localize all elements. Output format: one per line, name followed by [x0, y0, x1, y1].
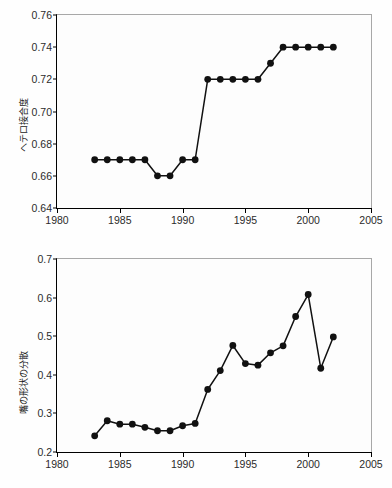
- data-point-marker: [129, 421, 136, 428]
- x-tick-label-bottom: 2000: [297, 458, 320, 470]
- x-tick-label-bottom: 1985: [108, 458, 131, 470]
- y-tick-label-bottom: 0.4: [37, 369, 52, 381]
- y-tick-mark-bottom: [53, 413, 57, 414]
- data-point-marker: [179, 156, 186, 163]
- x-tick-label-bottom: 2005: [359, 458, 382, 470]
- figure-container: ヘテロ接合度 0.640.660.680.700.720.740.7619801…: [0, 0, 392, 488]
- y-tick-label-top: 0.72: [32, 73, 52, 85]
- data-point-marker: [317, 44, 324, 51]
- x-tick-mark-bottom: [183, 452, 184, 457]
- data-line-top: [95, 47, 334, 176]
- y-tick-label-bottom: 0.6: [37, 292, 52, 304]
- y-axis-label-top: ヘテロ接合度: [17, 98, 30, 152]
- chart-panel-bottom: 嘴の形状の分散 0.20.30.40.50.60.719801985199019…: [0, 244, 392, 488]
- data-point-marker: [179, 422, 186, 429]
- data-point-marker: [217, 367, 224, 374]
- x-tick-mark-top: [183, 208, 184, 213]
- x-tick-label-bottom: 1980: [45, 458, 68, 470]
- y-tick-label-top: 0.74: [32, 41, 52, 53]
- x-tick-label-top: 1980: [45, 214, 68, 226]
- data-point-marker: [129, 156, 136, 163]
- plot-area-bottom: 0.20.30.40.50.60.71980198519901995200020…: [56, 258, 372, 453]
- data-point-marker: [154, 427, 161, 434]
- x-tick-mark-bottom: [371, 452, 372, 457]
- data-point-marker: [192, 156, 199, 163]
- data-point-marker: [305, 291, 312, 298]
- x-tick-mark-top: [57, 208, 58, 213]
- data-point-marker: [280, 342, 287, 349]
- x-tick-mark-bottom: [57, 452, 58, 457]
- data-point-marker: [167, 172, 174, 179]
- data-point-marker: [217, 76, 224, 83]
- x-tick-mark-top: [371, 208, 372, 213]
- data-point-marker: [317, 365, 324, 372]
- data-point-marker: [330, 334, 337, 341]
- data-point-marker: [142, 156, 149, 163]
- chart-panel-top: ヘテロ接合度 0.640.660.680.700.720.740.7619801…: [0, 0, 392, 244]
- y-tick-label-top: 0.68: [32, 138, 52, 150]
- x-tick-label-top: 1995: [234, 214, 257, 226]
- y-tick-mark-bottom: [53, 259, 57, 260]
- y-tick-mark-top: [53, 47, 57, 48]
- y-tick-label-bottom: 0.5: [37, 330, 52, 342]
- data-point-marker: [142, 424, 149, 431]
- data-point-marker: [330, 44, 337, 51]
- x-tick-label-top: 2005: [359, 214, 382, 226]
- y-tick-label-bottom: 0.2: [37, 446, 52, 458]
- x-tick-mark-bottom: [120, 452, 121, 457]
- x-tick-mark-bottom: [308, 452, 309, 457]
- x-tick-mark-top: [308, 208, 309, 213]
- y-tick-label-top: 0.64: [32, 202, 52, 214]
- data-point-marker: [255, 76, 262, 83]
- y-axis-label-bottom: 嘴の形状の分散: [17, 351, 30, 414]
- data-point-marker: [229, 342, 236, 349]
- x-tick-label-bottom: 1990: [171, 458, 194, 470]
- y-tick-label-top: 0.76: [32, 9, 52, 21]
- data-point-marker: [116, 421, 123, 428]
- data-point-marker: [229, 76, 236, 83]
- x-tick-mark-bottom: [245, 452, 246, 457]
- y-tick-label-bottom: 0.7: [37, 253, 52, 265]
- data-point-marker: [255, 362, 262, 369]
- x-tick-label-top: 1985: [108, 214, 131, 226]
- y-tick-label-top: 0.70: [32, 106, 52, 118]
- data-point-marker: [292, 44, 299, 51]
- data-point-marker: [104, 156, 111, 163]
- y-tick-mark-bottom: [53, 297, 57, 298]
- data-point-marker: [204, 386, 211, 393]
- data-point-marker: [116, 156, 123, 163]
- data-point-marker: [267, 349, 274, 356]
- x-tick-label-top: 1990: [171, 214, 194, 226]
- y-tick-mark-top: [53, 111, 57, 112]
- x-tick-mark-top: [245, 208, 246, 213]
- y-tick-mark-bottom: [53, 374, 57, 375]
- series-line-top: [57, 15, 373, 210]
- y-tick-label-bottom: 0.3: [37, 407, 52, 419]
- data-point-marker: [267, 60, 274, 67]
- data-point-marker: [104, 417, 111, 424]
- x-tick-mark-top: [120, 208, 121, 213]
- data-point-marker: [91, 432, 98, 439]
- data-point-marker: [154, 172, 161, 179]
- y-tick-mark-top: [53, 143, 57, 144]
- data-point-marker: [91, 156, 98, 163]
- y-tick-label-top: 0.66: [32, 170, 52, 182]
- x-tick-label-bottom: 1995: [234, 458, 257, 470]
- y-tick-mark-top: [53, 15, 57, 16]
- plot-area-top: 0.640.660.680.700.720.740.76198019851990…: [56, 14, 372, 209]
- data-point-marker: [305, 44, 312, 51]
- data-point-marker: [280, 44, 287, 51]
- y-tick-mark-bottom: [53, 336, 57, 337]
- series-line-bottom: [57, 259, 373, 454]
- data-point-marker: [242, 360, 249, 367]
- y-tick-mark-top: [53, 79, 57, 80]
- data-point-marker: [167, 427, 174, 434]
- y-tick-mark-top: [53, 175, 57, 176]
- data-point-marker: [192, 420, 199, 427]
- data-point-marker: [242, 76, 249, 83]
- data-point-marker: [292, 313, 299, 320]
- x-tick-label-top: 2000: [297, 214, 320, 226]
- data-point-marker: [204, 76, 211, 83]
